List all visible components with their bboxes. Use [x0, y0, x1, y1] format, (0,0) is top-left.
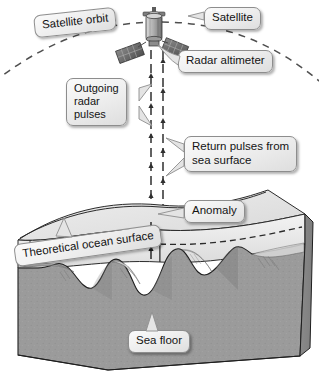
callout-outgoing-radar-pulses: Outgoing radar pulses [66, 78, 127, 126]
callout-return-pulses: Return pulses from sea surface [184, 136, 297, 172]
callout-satellite: Satellite [204, 7, 261, 30]
radar-pulse-lines [148, 50, 165, 222]
callout-sea-floor: Sea floor [128, 330, 190, 353]
callout-anomaly: Anomaly [184, 200, 245, 223]
diagram-canvas: Satellite orbit Satellite Radar altimete… [0, 0, 319, 383]
callout-radar-altimeter: Radar altimeter [178, 50, 273, 73]
